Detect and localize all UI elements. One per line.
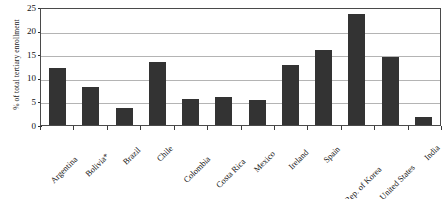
bar[interactable] (182, 99, 199, 125)
y-tick-label: 5 (14, 98, 36, 107)
bar[interactable] (82, 87, 99, 125)
bar-slot (374, 9, 407, 125)
bar-slot (141, 9, 174, 125)
x-tick-mark (174, 126, 175, 130)
bar[interactable] (282, 65, 299, 125)
x-axis-label: Colombia (206, 131, 236, 161)
x-tick-mark (40, 126, 41, 130)
x-tick-mark (341, 126, 342, 130)
bar-slot (207, 9, 240, 125)
bar-slot (407, 9, 440, 125)
bar-slot (41, 9, 74, 125)
bar[interactable] (215, 97, 232, 125)
bar[interactable] (49, 68, 66, 125)
y-axis-tick-labels: 0510152025 (14, 8, 36, 126)
x-tick-mark (307, 126, 308, 130)
bar[interactable] (415, 117, 432, 125)
x-axis-label: Ireland (304, 131, 327, 154)
x-axis-label: Brazil (136, 131, 157, 152)
bar-chart: % of total tertiary enrollment 051015202… (0, 0, 447, 199)
bar-slot (108, 9, 141, 125)
y-tick-label: 0 (14, 122, 36, 131)
x-axis-label: Chile (168, 131, 187, 150)
x-tick-mark (241, 126, 242, 130)
y-tick-label: 20 (14, 27, 36, 36)
x-tick-mark (274, 126, 275, 130)
bar[interactable] (249, 100, 266, 125)
bar[interactable] (116, 108, 133, 125)
x-tick-mark (408, 126, 409, 130)
x-tick-mark (107, 126, 108, 130)
bar[interactable] (348, 14, 365, 125)
bar[interactable] (149, 62, 166, 125)
bar-slot (274, 9, 307, 125)
bar-slot (74, 9, 107, 125)
bar-slot (174, 9, 207, 125)
bar[interactable] (382, 57, 399, 125)
x-axis-label: Mexico (271, 131, 296, 156)
bar-slot (340, 9, 373, 125)
plot-area (40, 8, 441, 126)
y-tick-label: 25 (14, 4, 36, 13)
x-axis-label: Spain (336, 131, 356, 151)
x-tick-mark (140, 126, 141, 130)
x-tick-mark (374, 126, 375, 130)
bar-slot (241, 9, 274, 125)
y-tick-label: 10 (14, 74, 36, 83)
x-tick-mark (73, 126, 74, 130)
bars-container (41, 9, 440, 125)
bar[interactable] (315, 50, 332, 125)
x-tick-mark (441, 126, 442, 130)
y-tick-label: 15 (14, 51, 36, 60)
x-axis-category-labels: ArgentinaBolivia*BrazilChileColombiaCost… (40, 131, 441, 197)
bar-slot (307, 9, 340, 125)
x-tick-mark (207, 126, 208, 130)
